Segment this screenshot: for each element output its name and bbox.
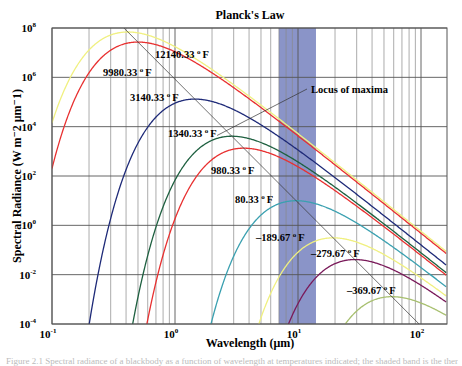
- curve-label: 980.33 oF: [211, 164, 254, 176]
- x-tick: 10-1: [40, 327, 57, 340]
- curve-label: 3140.33 oF: [130, 91, 179, 103]
- x-axis-label: Wavelength (μm): [206, 336, 294, 350]
- y-tick: 10-4: [19, 317, 36, 330]
- curve-8: [340, 297, 446, 332]
- figure-caption: Figure 2.1 Spectral radiance of a blackb…: [6, 356, 458, 366]
- x-tick: 102: [410, 327, 425, 340]
- curve-label: 12140.33 oF: [155, 48, 209, 60]
- curve-label: 80.33 oF: [235, 193, 273, 205]
- y-tick: 10-2: [19, 268, 36, 281]
- curve-label: –369.67 oF: [346, 284, 396, 296]
- y-tick: 108: [22, 21, 37, 34]
- curve-label: 9980.33 oF: [103, 66, 152, 78]
- x-tick: 100: [164, 327, 179, 340]
- y-axis-label: Spectral Radiance (W m⁻2 μm⁻1): [10, 89, 24, 263]
- planck-chart: 12140.33 oF9980.33 oF3140.33 oF1340.33 o…: [0, 0, 462, 366]
- locus-annotation: Locus of maxima: [311, 84, 389, 95]
- curve-5: [210, 201, 446, 330]
- chart-title: Planck's Law: [215, 8, 284, 22]
- curve-label: 1340.33 oF: [168, 127, 217, 139]
- y-tick: 106: [22, 70, 37, 83]
